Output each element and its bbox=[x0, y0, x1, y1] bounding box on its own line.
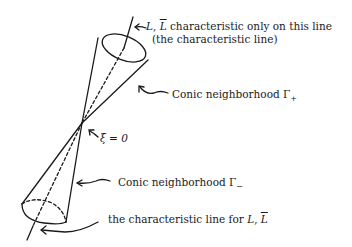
comma: , bbox=[254, 213, 261, 225]
characteristic-line-top bbox=[124, 17, 133, 48]
label-characteristic-only: LL, , L characteristic only on this line bbox=[146, 20, 332, 32]
label-xi-zero: ξ = 0 bbox=[100, 132, 128, 144]
label-conic-neighborhood-plus: Conic neighborhood Γ+ bbox=[172, 88, 297, 105]
label-characteristic-line-for-L: the characteristic line for L, L bbox=[108, 213, 268, 225]
xi-equation: ξ = 0 bbox=[100, 132, 128, 144]
label-text: the characteristic line for bbox=[108, 213, 247, 225]
label-text: Conic neighborhood Γ bbox=[118, 176, 236, 188]
label-text: characteristic only on this line bbox=[167, 20, 332, 32]
operator-L-bar: L bbox=[160, 20, 167, 32]
arrow-conic-plus bbox=[140, 87, 168, 93]
lower-cone-left-edge bbox=[22, 123, 82, 204]
axis-dashed-upper bbox=[82, 48, 124, 123]
arrow-top bbox=[136, 27, 146, 28]
subscript-plus: + bbox=[290, 94, 297, 103]
arrow-conic-minus bbox=[78, 180, 110, 184]
label-text: Conic neighborhood Γ bbox=[172, 88, 290, 100]
arrow-xi bbox=[90, 131, 98, 137]
lower-cone-rim-front bbox=[22, 204, 66, 224]
label-conic-neighborhood-minus: Conic neighborhood Γ− bbox=[118, 176, 243, 193]
lower-cone-right-edge bbox=[66, 123, 82, 222]
characteristic-line-bottom bbox=[27, 226, 33, 240]
comma: , bbox=[153, 20, 160, 32]
label-the-characteristic-line: (the characteristic line) bbox=[152, 33, 277, 45]
axis-dashed-lower bbox=[33, 123, 82, 226]
operator-L: L bbox=[146, 20, 153, 32]
operator-L-bar: L bbox=[261, 213, 268, 225]
subscript-minus: − bbox=[236, 182, 243, 191]
